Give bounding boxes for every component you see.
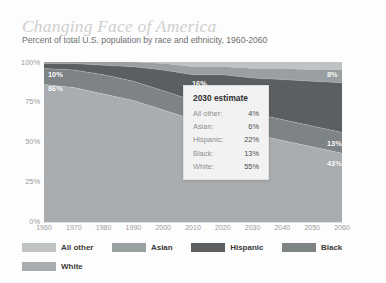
x-tick-1960: 1960 [29,224,59,231]
tooltip-row-black: Black: 13% [193,149,259,158]
tooltip-title: 2030 estimate [193,93,259,103]
data-label-white-2060: 43% [327,159,342,168]
legend-item-all-other[interactable]: All other [22,243,93,252]
y-tick-100: 100% [14,58,40,67]
tooltip-label: Hispanic: [193,135,223,144]
legend-label: Asian [151,243,173,252]
tooltip-label: Asian: [193,122,214,131]
y-tick-50: 50% [14,137,40,146]
y-tick-25: 25% [14,177,40,186]
legend-swatch-hispanic [191,243,225,252]
x-tick-2020: 2020 [208,224,238,231]
legend-swatch-all-other [22,243,56,252]
data-label-asian-2060: 8% [327,70,338,79]
legend-label: Black [321,243,342,252]
tooltip-value: 22% [244,135,259,144]
legend-item-asian[interactable]: Asian [112,243,173,252]
x-tick-1990: 1990 [118,224,148,231]
tooltip-row-all-other: All other: 4% [193,109,259,118]
x-axis-line [44,222,342,223]
chart-card: Changing Face of America Percent of tota… [0,0,386,283]
legend: All other Asian Hispanic Black White [22,243,372,280]
legend-label: All other [61,243,93,252]
page-subtitle: Percent of total U.S. population by race… [22,35,267,45]
tooltip-value: 4% [248,109,259,118]
chart-tooltip: 2030 estimate All other: 4% Asian: 6% Hi… [183,85,269,180]
x-tick-1970: 1970 [59,224,89,231]
x-tick-2060: 2060 [327,224,357,231]
data-label-white-1960: 86% [48,84,63,93]
x-tick-2040: 2040 [267,224,297,231]
tooltip-row-hispanic: Hispanic: 22% [193,135,259,144]
tooltip-label: Black: [193,149,213,158]
page-title: Changing Face of America [22,16,217,37]
legend-swatch-asian [112,243,146,252]
y-tick-75: 75% [14,97,40,106]
legend-item-white[interactable]: White [22,262,83,271]
x-tick-2030: 2030 [238,224,268,231]
tooltip-row-asian: Asian: 6% [193,122,259,131]
tooltip-value: 55% [244,162,259,171]
legend-item-hispanic[interactable]: Hispanic [191,243,263,252]
tooltip-row-white: White: 55% [193,162,259,171]
x-tick-1980: 1980 [89,224,119,231]
legend-label: Hispanic [230,243,263,252]
x-tick-2050: 2050 [297,224,327,231]
tooltip-label: All other: [193,109,222,118]
tooltip-label: White: [193,162,214,171]
legend-label: White [61,262,83,271]
data-label-black-2060: 13% [327,139,342,148]
data-label-black-1960: 10% [48,70,63,79]
tooltip-value: 13% [244,149,259,158]
tooltip-value: 6% [248,122,259,131]
legend-item-black[interactable]: Black [282,243,342,252]
legend-swatch-white [22,262,56,271]
x-tick-2000: 2000 [148,224,178,231]
x-tick-2010: 2010 [178,224,208,231]
legend-swatch-black [282,243,316,252]
